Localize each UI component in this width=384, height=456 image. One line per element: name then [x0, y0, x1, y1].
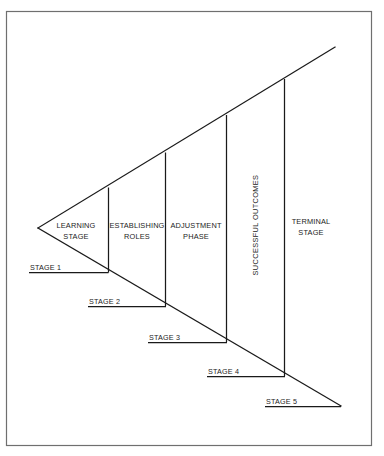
stage-label-stage-5: STAGE 5	[266, 397, 297, 406]
segment-label-line-2: ROLES	[124, 232, 150, 241]
stage-label-stage-1: STAGE 1	[30, 263, 61, 272]
segment-label-line-1: TERMINAL	[292, 217, 331, 226]
segment-label-line-2: STAGE	[63, 232, 88, 241]
segment-label-line-2: PHASE	[183, 232, 209, 241]
segment-label-line-2: STAGE	[298, 228, 323, 237]
segment-label-successful-outcomes: SUCCESSFUL OUTCOMES	[251, 175, 260, 276]
stage-label-stage-4: STAGE 4	[208, 367, 239, 376]
segment-label-line-1: ESTABLISHING	[109, 221, 164, 230]
segment-label-line-1: SUCCESSFUL OUTCOMES	[251, 175, 260, 276]
stage-label-stage-3: STAGE 3	[149, 333, 180, 342]
segment-label-line-1: LEARNING	[57, 221, 96, 230]
segment-label-line-1: ADJUSTMENT	[170, 221, 222, 230]
stage-progression-diagram: LEARNING STAGE ESTABLISHING ROLES ADJUST…	[0, 0, 384, 456]
diagram-container: LEARNING STAGE ESTABLISHING ROLES ADJUST…	[0, 0, 384, 456]
stage-label-stage-2: STAGE 2	[89, 297, 120, 306]
